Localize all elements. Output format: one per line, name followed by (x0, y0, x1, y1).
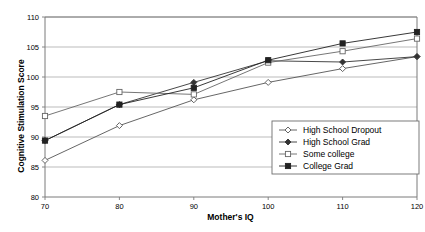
y-axis-tick-label: 90 (31, 133, 39, 142)
data-point-marker (265, 79, 271, 85)
data-point-marker (414, 54, 420, 60)
data-point-marker (117, 89, 122, 94)
data-point-marker (42, 157, 48, 163)
data-point-marker (116, 123, 122, 129)
data-point-marker (340, 41, 345, 46)
legend-item-label[interactable]: High School Dropout (303, 125, 382, 135)
legend-item-label[interactable]: College Grad (303, 161, 353, 171)
data-point-marker (340, 49, 345, 54)
legend-item-label[interactable]: High School Grad (303, 137, 370, 147)
x-axis-tick-label: 110 (337, 202, 349, 211)
data-point-marker (340, 59, 346, 65)
data-point-marker (414, 29, 419, 34)
data-point-marker (42, 138, 47, 143)
y-axis-tick-label: 105 (26, 43, 39, 52)
plot-area: 80859095100105110 708090100110120 High S… (0, 0, 425, 232)
chart-legend: High School DropoutHigh School GradSome … (272, 121, 419, 174)
y-axis-tick-label: 95 (31, 103, 39, 112)
x-axis-tick-labels: 708090100110120 (41, 202, 423, 211)
data-point-marker (42, 113, 47, 118)
legend-item-label[interactable]: Some college (303, 149, 355, 159)
data-point-marker (285, 163, 290, 168)
y-axis-tick-label: 100 (26, 73, 39, 82)
data-point-marker (191, 97, 197, 103)
x-axis-tick-label: 80 (115, 202, 123, 211)
y-axis-tick-label: 85 (31, 163, 39, 172)
x-axis-tick-label: 100 (262, 202, 275, 211)
data-point-marker (191, 92, 196, 97)
data-point-marker (340, 66, 346, 72)
y-axis-tick-label: 110 (27, 13, 39, 22)
chart-container: Cognitive Stimulation Score Mother's IQ … (0, 0, 425, 232)
data-point-marker (266, 58, 271, 63)
data-point-marker (191, 85, 196, 90)
data-point-marker (414, 36, 419, 41)
data-point-marker (191, 79, 197, 85)
x-axis-tick-label: 70 (41, 202, 49, 211)
x-axis-tick-label: 120 (411, 202, 424, 211)
x-axis-tick-label: 90 (190, 202, 198, 211)
y-axis-tick-labels: 80859095100105110 (26, 13, 39, 202)
data-point-marker (285, 151, 290, 156)
y-axis-tick-label: 80 (31, 193, 39, 202)
data-point-marker (117, 102, 122, 107)
